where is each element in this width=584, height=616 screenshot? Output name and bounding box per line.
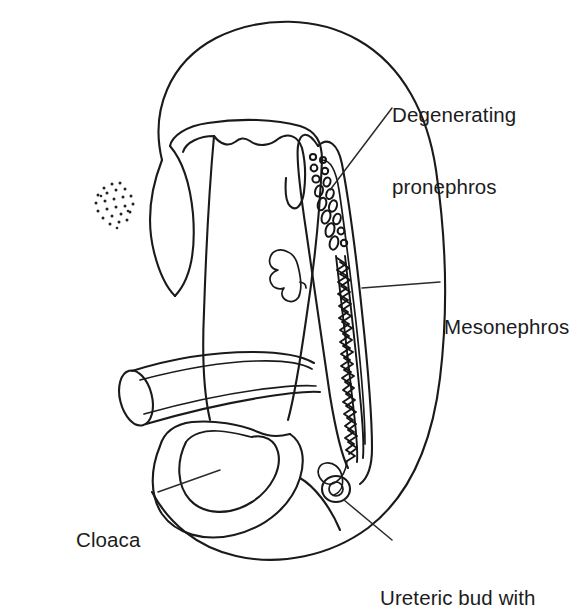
leader-degenerating-pronephros [330,108,392,190]
label-mesonephros-line1: Mesonephros [444,315,569,339]
head-stipple-patch [95,182,135,230]
cloaca [153,421,340,537]
label-cloaca: Cloaca [76,480,140,600]
lung-liver-bud [270,250,306,302]
embryo-kidney-diagram: Degenerating pronephros Mesonephros Cloa… [0,0,584,616]
label-mesonephros: Mesonephros [444,267,569,387]
leader-cloaca [158,470,220,492]
label-cloaca-line1: Cloaca [76,528,140,552]
leader-mesonephros [362,282,440,288]
ureteric-bud [322,476,350,502]
label-degenerating-pronephros-line1: Degenerating [392,103,516,127]
label-degenerating-pronephros-line2: pronephros [392,175,516,199]
leader-ureteric-bud [344,500,392,540]
label-ureteric-bud-line1: Ureteric bud with [380,586,546,610]
label-degenerating-pronephros: Degenerating pronephros [392,55,516,247]
label-ureteric-bud: Ureteric bud with developing kidney [380,538,546,616]
